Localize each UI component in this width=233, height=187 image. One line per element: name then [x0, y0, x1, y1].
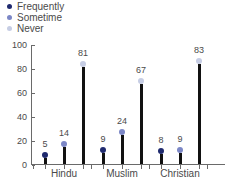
bar [179, 153, 182, 164]
x-axis-group-separator-tick [91, 165, 92, 169]
data-value-label: 14 [59, 129, 69, 138]
bar [82, 67, 85, 164]
y-axis-tick-label: 20 [17, 137, 27, 146]
y-axis-tick-label: 40 [17, 113, 27, 122]
y-axis-tick-mark [32, 117, 35, 118]
data-value-label: 8 [158, 136, 163, 145]
data-value-label: 5 [42, 140, 47, 149]
data-value-label: 67 [136, 66, 146, 75]
data-point-marker [42, 152, 48, 158]
y-axis-line [31, 45, 32, 165]
data-point-marker [158, 148, 164, 154]
data-value-label: 24 [117, 117, 127, 126]
legend-item-label: Frequently [17, 1, 64, 12]
y-axis-tick-mark [32, 93, 35, 94]
legend-dot-icon [7, 4, 12, 9]
bar [63, 147, 66, 164]
plot-area: 020406080100 51481924678983 [31, 45, 225, 165]
bar [160, 154, 163, 164]
legend-dot-icon [7, 26, 12, 31]
x-axis-category-label: Muslim [106, 168, 138, 179]
x-axis-tick-mark [45, 165, 46, 169]
x-axis-group-separator-tick [33, 165, 34, 169]
legend-dot-icon [7, 15, 12, 20]
y-axis-tick-mark [32, 45, 35, 46]
y-axis-tick-label: 100 [12, 41, 27, 50]
x-axis-category-label: Hindu [51, 168, 77, 179]
legend-item-sometime: Sometime [7, 12, 127, 23]
grouped-bar-chart: Frequently Sometime Never 020406080100 5… [0, 0, 233, 187]
bar [198, 64, 201, 164]
x-axis-group-separator-tick [207, 165, 208, 169]
bar [121, 135, 124, 164]
data-point-marker [119, 129, 125, 135]
y-axis-tick-label: 60 [17, 89, 27, 98]
data-value-label: 81 [78, 49, 88, 58]
data-value-label: 9 [100, 135, 105, 144]
data-point-marker [177, 147, 183, 153]
x-axis-tick-mark [103, 165, 104, 169]
legend-item-never: Never [7, 23, 127, 34]
data-point-marker [80, 61, 86, 67]
legend-item-label: Never [17, 23, 44, 34]
y-axis-tick-label: 80 [17, 65, 27, 74]
x-axis-line [31, 164, 225, 165]
x-axis-tick-mark [83, 165, 84, 169]
legend-item-frequently: Frequently [7, 1, 127, 12]
y-axis-tick-mark [32, 69, 35, 70]
x-axis-category-label: Christian [160, 168, 199, 179]
y-axis-tick-label: 0 [22, 161, 27, 170]
legend-item-label: Sometime [17, 12, 62, 23]
y-axis-tick-mark [32, 141, 35, 142]
data-point-marker [61, 141, 67, 147]
chart-legend: Frequently Sometime Never [7, 1, 127, 34]
x-axis-tick-mark [141, 165, 142, 169]
data-value-label: 83 [194, 46, 204, 55]
data-value-label: 9 [177, 135, 182, 144]
data-point-marker [138, 78, 144, 84]
data-point-marker [196, 58, 202, 64]
bar [140, 84, 143, 164]
bar [44, 158, 47, 164]
bar [102, 153, 105, 164]
x-axis-group-separator-tick [149, 165, 150, 169]
data-point-marker [100, 147, 106, 153]
